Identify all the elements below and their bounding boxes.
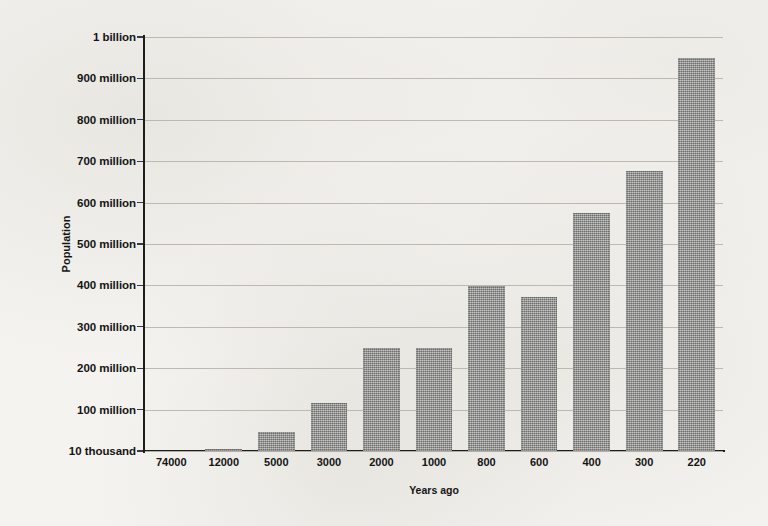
y-axis-tick-label: 300 million: [77, 321, 136, 333]
bar: [311, 403, 348, 451]
y-axis-tick-label: 1 billion: [93, 31, 136, 43]
y-axis-title: Population: [60, 184, 72, 304]
gridline: [145, 78, 723, 79]
bar: [626, 171, 663, 451]
population-bar-chart: 1 billion900 million800 million700 milli…: [0, 0, 768, 526]
y-axis-tick-label: 600 million: [77, 197, 136, 209]
x-axis-tick-label: 3000: [317, 456, 341, 468]
bar: [205, 449, 242, 451]
x-axis-tick-label: 1000: [422, 456, 446, 468]
x-axis-tick-label: 220: [688, 456, 706, 468]
y-axis-tick-label: 700 million: [77, 155, 136, 167]
x-axis-tick-label: 5000: [264, 456, 288, 468]
bar: [416, 348, 453, 451]
gridline: [145, 120, 723, 121]
gridline: [145, 37, 723, 38]
gridline: [145, 161, 723, 162]
x-axis-title: Years ago: [145, 484, 723, 496]
bar: [678, 58, 715, 451]
x-axis-tick-label: 400: [582, 456, 600, 468]
x-axis-tick-label: 2000: [369, 456, 393, 468]
plot-area: [145, 37, 723, 451]
gridline: [145, 451, 723, 452]
y-axis-tick-label: 900 million: [77, 72, 136, 84]
bar: [573, 213, 610, 451]
bar: [521, 297, 558, 451]
y-axis-tick-label: 400 million: [77, 279, 136, 291]
y-axis-tick-label: 500 million: [77, 238, 136, 250]
bar: [363, 348, 400, 451]
bar: [468, 286, 505, 451]
x-axis-tick-label: 12000: [209, 456, 240, 468]
x-axis-tick-label: 300: [635, 456, 653, 468]
y-axis-tick-label: 100 million: [77, 404, 136, 416]
x-axis-tick-label: 600: [530, 456, 548, 468]
x-axis-tick-label: 74000: [156, 456, 187, 468]
bar: [258, 432, 295, 451]
x-axis-tick-label: 800: [477, 456, 495, 468]
y-axis-tick-label: 10 thousand: [69, 445, 136, 457]
x-axis-tick-labels: 7400012000500030002000100080060040030022…: [145, 456, 723, 474]
y-axis-tick-label: 200 million: [77, 362, 136, 374]
y-axis-tick-label: 800 million: [77, 114, 136, 126]
